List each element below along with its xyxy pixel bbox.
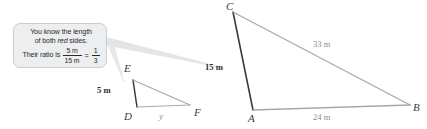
side-de-length: 5 m: [97, 85, 111, 95]
equals-sign: =: [84, 51, 89, 60]
fraction-right: 1 3: [92, 47, 100, 65]
ratio-prefix: Their ratio is: [22, 51, 60, 60]
side-ab-length: 24 m: [313, 112, 330, 122]
vertex-label-a: A: [248, 112, 255, 124]
vertex-label-c: C: [226, 0, 233, 12]
fraction-left: 5 m 15 m: [63, 47, 82, 65]
side-df-length: y: [159, 111, 163, 121]
segment-de: [133, 80, 137, 107]
fraction-left-denominator: 15 m: [63, 55, 82, 64]
callout-text: You know the length of both red sides. T…: [14, 24, 108, 69]
callout-line-1: You know the length: [30, 28, 92, 36]
callout-box: You know the length of both red sides. T…: [13, 23, 107, 68]
vertex-label-e: E: [124, 62, 131, 74]
fraction-left-numerator: 5 m: [64, 47, 79, 55]
vertex-label-f: F: [194, 106, 201, 118]
callout-line-2-after: sides.: [68, 37, 88, 45]
callout-line-2-before: of both: [35, 37, 58, 45]
ratio-expression: Their ratio is 5 m 15 m = 1 3: [14, 47, 108, 65]
callout-line-2: of both red sides.: [14, 37, 108, 46]
segment-cb: [233, 12, 410, 105]
segment-ab: [253, 105, 410, 110]
vertex-label-b: B: [413, 101, 420, 113]
figure-canvas: You know the length of both red sides. T…: [0, 0, 427, 129]
vertex-label-d: D: [124, 110, 132, 122]
side-ac-length: 15 m: [205, 62, 223, 72]
segment-df: [137, 105, 190, 107]
fraction-right-numerator: 1: [92, 47, 100, 55]
segment-ef: [133, 80, 190, 105]
side-cb-length: 33 m: [313, 39, 330, 49]
callout-emphasis-red: red: [58, 37, 68, 45]
fraction-right-denominator: 3: [92, 55, 100, 64]
segment-ca: [233, 12, 253, 110]
